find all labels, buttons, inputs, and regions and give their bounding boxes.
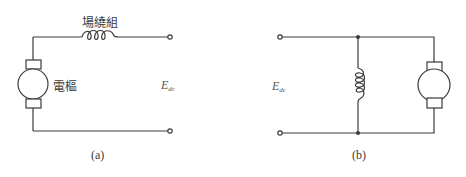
armature-brush-top bbox=[26, 60, 41, 69]
caption-a: (a) bbox=[91, 148, 104, 163]
terminal-b-bottom bbox=[278, 131, 282, 135]
voltage-label-b: Edc bbox=[272, 79, 286, 94]
voltage-subscript: dc bbox=[168, 85, 175, 93]
junction-b-top bbox=[356, 35, 360, 39]
voltage-subscript: dc bbox=[279, 86, 286, 94]
armature-b-icon bbox=[418, 69, 450, 101]
terminal-a-bottom bbox=[168, 129, 172, 133]
terminal-b-top bbox=[278, 35, 282, 39]
armature-icon bbox=[18, 69, 48, 99]
armature-brush-bottom bbox=[26, 99, 41, 108]
caption-b: (b) bbox=[352, 148, 366, 163]
field-winding-label: 場繞組 bbox=[82, 13, 118, 30]
armature-label: 電樞 bbox=[53, 77, 77, 94]
panel-a-circuit bbox=[18, 31, 172, 134]
armature-b-brush-bottom bbox=[427, 98, 442, 108]
junction-b-bottom bbox=[356, 131, 360, 135]
field-winding-coil-icon bbox=[82, 31, 120, 40]
terminal-a-top bbox=[168, 35, 172, 39]
panel-b-circuit bbox=[278, 35, 450, 135]
voltage-label-a: Edc bbox=[161, 78, 175, 93]
shunt-field-coil-icon bbox=[356, 68, 365, 102]
